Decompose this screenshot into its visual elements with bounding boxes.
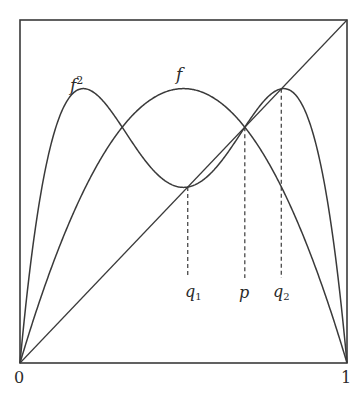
dashed-marker-lines — [188, 89, 282, 278]
identity-diagonal — [20, 20, 347, 363]
marker-label-p: p — [239, 283, 249, 302]
curve-f — [20, 89, 347, 363]
curve-label-f: f — [174, 64, 185, 84]
curve-f-squared — [20, 89, 347, 363]
axis-label-zero: 0 — [14, 368, 24, 387]
marker-label-q2: q2 — [273, 282, 290, 302]
curve-label-f2: f2 — [68, 74, 83, 95]
axis-label-one: 1 — [341, 368, 351, 387]
fixed-point-diagram: f2 f q1 p q2 0 1 — [0, 0, 362, 405]
marker-label-q1: q1 — [185, 282, 202, 302]
